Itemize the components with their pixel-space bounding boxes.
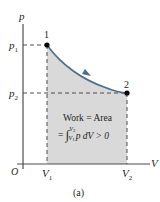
point-2-label: 2	[124, 79, 129, 90]
point-2	[124, 90, 129, 95]
work-area-label: Work = Area	[63, 113, 113, 123]
v2-label: V2	[122, 167, 133, 182]
v-axis-label: V	[151, 157, 159, 169]
point-1	[44, 42, 49, 47]
direction-arrow-icon	[82, 69, 91, 76]
p1-label: p1	[8, 39, 19, 54]
work-area-fill	[47, 45, 127, 164]
v1-label: V1	[42, 167, 53, 182]
p-axis-label: p	[18, 10, 25, 22]
point-1-label: 1	[44, 29, 49, 40]
caption: (a)	[73, 187, 84, 199]
origin-label: O	[11, 166, 18, 177]
p2-label: p2	[8, 87, 19, 102]
pv-diagram: p V O 1 2 p1 p2 V1 V2 Work = Area = ∫V2V…	[0, 0, 160, 202]
